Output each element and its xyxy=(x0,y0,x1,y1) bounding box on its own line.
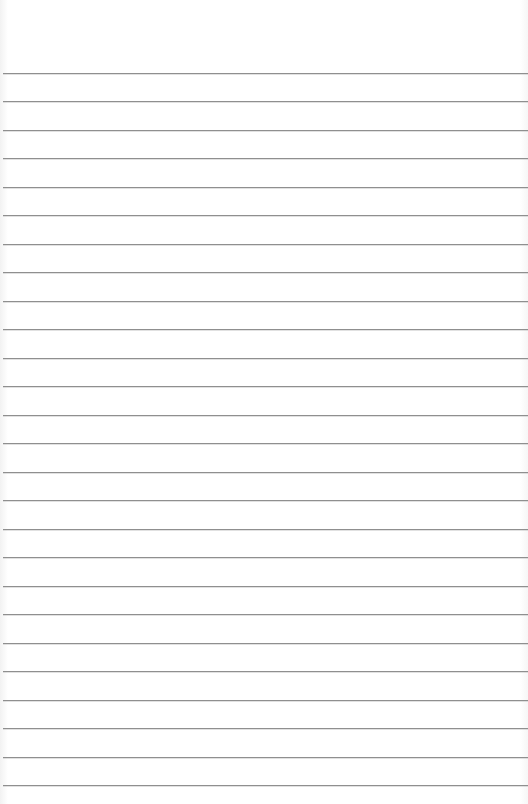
ruled-line xyxy=(3,700,528,701)
ruled-line xyxy=(3,272,528,273)
ruled-line xyxy=(3,472,528,473)
ruled-line xyxy=(3,358,528,359)
ruled-line xyxy=(3,101,528,102)
ruled-line xyxy=(3,215,528,216)
ruled-line xyxy=(3,301,528,302)
ruled-line xyxy=(3,728,528,729)
ruled-line xyxy=(3,757,528,758)
ruled-line xyxy=(3,130,528,131)
ruled-line xyxy=(3,500,528,501)
ruled-line xyxy=(3,614,528,615)
lined-paper xyxy=(0,0,528,804)
ruled-line xyxy=(3,244,528,245)
ruled-line xyxy=(3,443,528,444)
ruled-line xyxy=(3,329,528,330)
ruled-line xyxy=(3,529,528,530)
ruled-line xyxy=(3,586,528,587)
ruled-line xyxy=(3,643,528,644)
ruled-line xyxy=(3,73,528,74)
ruled-line xyxy=(3,785,528,786)
ruled-line xyxy=(3,415,528,416)
ruled-line xyxy=(3,158,528,159)
ruled-line xyxy=(3,557,528,558)
ruled-line xyxy=(3,671,528,672)
ruled-line xyxy=(3,187,528,188)
ruled-line xyxy=(3,386,528,387)
